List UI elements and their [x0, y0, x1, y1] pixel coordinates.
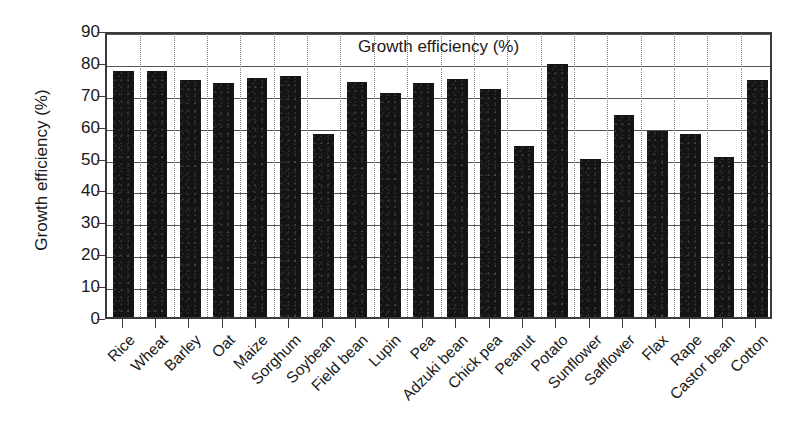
y-axis-tick-mark	[97, 32, 105, 33]
x-axis-tick-mark	[522, 319, 523, 328]
y-axis-tick-label: 70	[56, 86, 100, 106]
bar	[614, 115, 635, 317]
x-axis-tick-mark	[222, 319, 223, 328]
y-axis-tick-mark	[97, 255, 105, 256]
vertical-gridline	[507, 34, 508, 317]
y-axis-tick-mark	[97, 319, 105, 320]
x-axis-tick-mark	[255, 319, 256, 328]
bar	[580, 159, 601, 317]
vertical-gridline	[474, 34, 475, 317]
bar-chart-figure: Growth efficiency (%) 010203040506070809…	[0, 0, 806, 445]
plot-area: Growth efficiency (%)	[105, 32, 772, 319]
x-axis-tick-mark	[655, 319, 656, 328]
bar	[313, 134, 334, 317]
vertical-gridline	[574, 34, 575, 317]
y-axis-tick-label: 50	[56, 150, 100, 170]
x-axis-tick-mark	[188, 319, 189, 328]
y-axis-tick-mark	[97, 160, 105, 161]
vertical-gridline	[274, 34, 275, 317]
chart-title: Growth efficiency (%)	[107, 37, 770, 57]
y-axis-tick-label: 30	[56, 213, 100, 233]
bar	[747, 80, 768, 317]
vertical-gridline	[340, 34, 341, 317]
y-axis-tick-mark	[97, 96, 105, 97]
y-axis-title: Growth efficiency (%)	[32, 40, 52, 300]
bar	[380, 93, 401, 317]
vertical-gridline	[674, 34, 675, 317]
y-axis-tick-label: 40	[56, 181, 100, 201]
bar	[447, 79, 468, 317]
y-axis-tick-labels: 0102030405060708090	[50, 32, 100, 319]
y-axis-tick-label: 10	[56, 277, 100, 297]
x-axis-tick-mark	[489, 319, 490, 328]
y-axis-tick-label: 20	[56, 245, 100, 265]
vertical-gridline	[741, 34, 742, 317]
vertical-gridline	[441, 34, 442, 317]
vertical-gridline	[607, 34, 608, 317]
x-axis-tick-mark	[589, 319, 590, 328]
x-axis-tick-mark	[355, 319, 356, 328]
bar	[280, 76, 301, 317]
y-axis-tick-mark	[97, 64, 105, 65]
bar	[647, 131, 668, 317]
bar	[413, 83, 434, 317]
x-axis-tick-labels: RiceWheatBarleyOatMaizeSorghumSoybeanFie…	[0, 329, 806, 445]
plot-inner	[107, 34, 770, 317]
x-axis-tick-mark	[388, 319, 389, 328]
bar	[180, 80, 201, 317]
bar	[547, 64, 568, 317]
bar	[680, 134, 701, 317]
vertical-gridline	[641, 34, 642, 317]
vertical-gridline	[374, 34, 375, 317]
x-axis-tick-mark	[155, 319, 156, 328]
bar	[147, 71, 168, 317]
y-axis-tick-label: 90	[56, 22, 100, 42]
bar	[247, 78, 268, 317]
x-axis-tick-mark	[622, 319, 623, 328]
bar	[113, 71, 134, 317]
x-axis-tick-mark	[322, 319, 323, 328]
vertical-gridline	[407, 34, 408, 317]
y-axis-tick-mark	[97, 128, 105, 129]
bar	[714, 157, 735, 317]
y-axis-tick-label: 80	[56, 54, 100, 74]
vertical-gridline	[307, 34, 308, 317]
y-axis-tick-mark	[97, 223, 105, 224]
x-axis-tick-mark	[455, 319, 456, 328]
bar	[213, 83, 234, 317]
bar	[480, 89, 501, 317]
vertical-gridline	[707, 34, 708, 317]
vertical-gridline	[207, 34, 208, 317]
y-axis-tick-mark	[97, 191, 105, 192]
y-axis-tick-mark	[97, 287, 105, 288]
x-axis-tick-mark	[422, 319, 423, 328]
vertical-gridline	[174, 34, 175, 317]
x-axis-tick-mark	[555, 319, 556, 328]
vertical-gridline	[240, 34, 241, 317]
x-axis-tick-mark	[122, 319, 123, 328]
x-axis-tick-mark	[288, 319, 289, 328]
y-axis-tick-label: 0	[56, 309, 100, 329]
x-axis-tick-mark	[689, 319, 690, 328]
vertical-gridline	[541, 34, 542, 317]
y-axis-tick-label: 60	[56, 118, 100, 138]
x-axis-tick-mark	[755, 319, 756, 328]
bar	[347, 82, 368, 317]
vertical-gridline	[140, 34, 141, 317]
x-axis-tick-mark	[722, 319, 723, 328]
